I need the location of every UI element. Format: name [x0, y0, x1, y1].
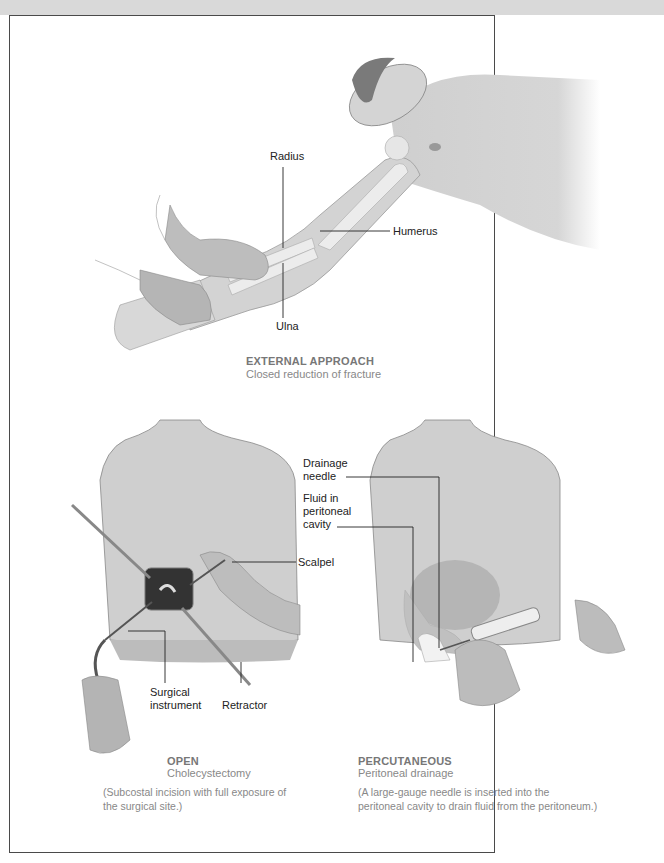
caption-external-subtitle: Closed reduction of fracture — [246, 368, 381, 380]
caption-external-title: EXTERNAL APPROACH — [246, 355, 374, 367]
label-surgical-line1: Surgical — [150, 686, 201, 699]
patient-arm-figure — [95, 51, 600, 350]
illustration-art — [0, 0, 664, 863]
caption-open-title: OPEN — [167, 755, 199, 767]
label-fluid-line3: cavity — [303, 518, 351, 531]
label-fluid-line1: Fluid in — [303, 492, 351, 505]
label-scalpel: Scalpel — [298, 556, 334, 569]
label-drainage-needle: Drainage needle — [303, 457, 348, 483]
caption-percutaneous-description: (A large-gauge needle is inserted into t… — [358, 785, 598, 813]
label-surgical-instrument: Surgical instrument — [150, 686, 201, 712]
caption-percutaneous-title: PERCUTANEOUS — [358, 755, 452, 767]
label-drainage-line1: Drainage — [303, 457, 348, 470]
caption-open-description: (Subcostal incision with full exposure o… — [103, 785, 303, 813]
label-retractor: Retractor — [222, 699, 267, 712]
label-drainage-line2: needle — [303, 470, 348, 483]
label-ulna: Ulna — [276, 320, 299, 333]
label-surgical-line2: instrument — [150, 699, 201, 712]
label-fluid-line2: peritoneal — [303, 505, 351, 518]
caption-open-subtitle: Cholecystectomy — [167, 767, 251, 779]
caption-percutaneous-subtitle: Peritoneal drainage — [358, 767, 453, 779]
percutaneous-torso-figure — [337, 420, 625, 706]
label-humerus: Humerus — [393, 225, 438, 238]
label-radius: Radius — [270, 150, 304, 163]
label-fluid-peritoneal-cavity: Fluid in peritoneal cavity — [303, 492, 351, 531]
